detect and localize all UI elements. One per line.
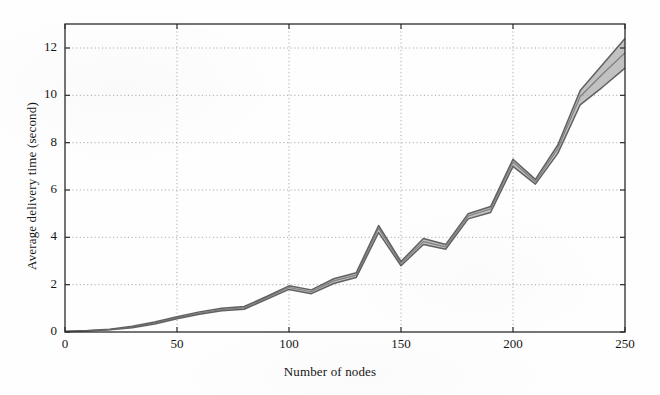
axis-frame	[65, 24, 625, 332]
y-tick-label: 4	[27, 228, 57, 244]
plot-svg	[0, 0, 660, 395]
x-tick-label: 200	[493, 336, 533, 352]
confidence-band	[65, 39, 625, 332]
x-tick-label: 250	[605, 336, 645, 352]
y-tick-label: 8	[27, 134, 57, 150]
y-tick-label: 0	[27, 323, 57, 339]
y-tick-label: 10	[27, 86, 57, 102]
grid-layer	[65, 24, 625, 332]
y-tick-label: 2	[27, 276, 57, 292]
tick-marks	[65, 24, 625, 332]
y-tick-label: 12	[27, 39, 57, 55]
x-tick-label: 150	[381, 336, 421, 352]
x-tick-label: 50	[157, 336, 197, 352]
x-axis-label: Number of nodes	[0, 364, 660, 380]
y-tick-label: 6	[27, 181, 57, 197]
x-tick-label: 100	[269, 336, 309, 352]
chart-figure: Average delivery time (second) Number of…	[0, 0, 660, 395]
data-line	[65, 39, 625, 332]
